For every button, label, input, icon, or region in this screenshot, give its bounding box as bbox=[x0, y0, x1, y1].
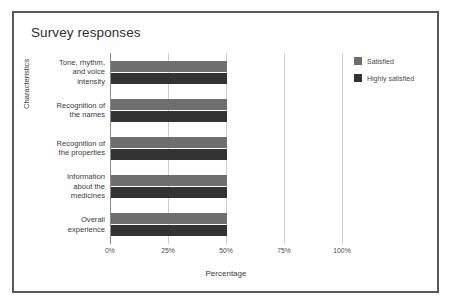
x-tick-25: 25% bbox=[161, 247, 175, 254]
legend-item[interactable]: Highly satisfied bbox=[354, 74, 438, 82]
category-label-line: Tone, rhythm, bbox=[14, 58, 105, 68]
category-label: Informationabout themedicines bbox=[14, 172, 110, 201]
category-labels: Tone, rhythm,and voiceintensityRecogniti… bbox=[14, 53, 110, 244]
plot-wrapper: Characteristics Tone, rhythm,and voicein… bbox=[14, 13, 437, 291]
category-label-line: Information bbox=[14, 172, 105, 182]
legend-item[interactable]: Satisfied bbox=[354, 57, 438, 65]
bar-highly-satisfied bbox=[111, 225, 227, 236]
gridline-100 bbox=[342, 53, 343, 244]
legend-swatch-icon bbox=[354, 74, 362, 82]
bar-highly-satisfied bbox=[111, 187, 227, 198]
category-label-line: intensity bbox=[14, 77, 105, 87]
category-label: Tone, rhythm,and voiceintensity bbox=[14, 58, 110, 87]
category-label-line: Recognition of bbox=[14, 139, 105, 149]
chart-legend: SatisfiedHighly satisfied bbox=[354, 57, 438, 91]
bar-highly-satisfied bbox=[111, 73, 227, 84]
category-label-line: and voice bbox=[14, 67, 105, 77]
category-label-line: Recognition of bbox=[14, 101, 105, 111]
x-tick-50: 50% bbox=[219, 247, 233, 254]
bars-layer bbox=[110, 53, 342, 244]
x-axis-title: Percentage bbox=[110, 269, 342, 278]
plot-area bbox=[110, 53, 342, 244]
bar-highly-satisfied bbox=[111, 149, 227, 160]
x-tick-75: 75% bbox=[277, 247, 291, 254]
legend-label: Satisfied bbox=[367, 58, 394, 65]
bar-group bbox=[111, 99, 342, 122]
category-label: Overallexperience bbox=[14, 215, 110, 234]
bar-satisfied bbox=[111, 213, 227, 224]
category-label-line: medicines bbox=[14, 191, 105, 201]
bar-satisfied bbox=[111, 137, 227, 148]
bar-highly-satisfied bbox=[111, 111, 227, 122]
category-label-line: the properties bbox=[14, 148, 105, 158]
legend-swatch-icon bbox=[354, 57, 362, 65]
category-label-line: the names bbox=[14, 110, 105, 120]
x-tick-0: 0% bbox=[105, 247, 115, 254]
bar-satisfied bbox=[111, 175, 227, 186]
survey-chart-card: Survey responses Characteristics Tone, r… bbox=[12, 11, 439, 293]
category-label: Recognition ofthe properties bbox=[14, 139, 110, 158]
bar-satisfied bbox=[111, 99, 227, 110]
bar-group bbox=[111, 213, 342, 236]
category-label-line: about the bbox=[14, 182, 105, 192]
category-label-line: experience bbox=[14, 225, 105, 235]
x-tick-labels: 0%25%50%75%100% bbox=[110, 247, 342, 261]
x-tick-100: 100% bbox=[333, 247, 350, 254]
category-label-line: Overall bbox=[14, 215, 105, 225]
bar-group bbox=[111, 137, 342, 160]
legend-label: Highly satisfied bbox=[367, 75, 414, 82]
category-label: Recognition ofthe names bbox=[14, 101, 110, 120]
bar-group bbox=[111, 61, 342, 84]
bar-group bbox=[111, 175, 342, 198]
bar-satisfied bbox=[111, 61, 227, 72]
